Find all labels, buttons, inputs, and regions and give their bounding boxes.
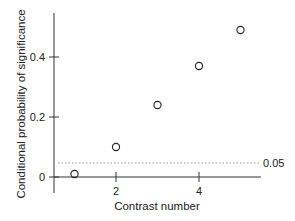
threshold-label: 0.05 bbox=[263, 157, 284, 169]
data-point bbox=[237, 26, 244, 33]
data-point bbox=[112, 143, 119, 150]
y-axis-label: Conditional probability of significance bbox=[15, 9, 27, 198]
x-ticks: 24 bbox=[113, 172, 202, 197]
y-ticks: 00.20.4 bbox=[30, 51, 59, 183]
axes bbox=[54, 13, 261, 193]
y-tick-label: 0 bbox=[39, 171, 45, 183]
data-points bbox=[71, 26, 244, 177]
data-point bbox=[154, 101, 161, 108]
data-point bbox=[195, 62, 202, 69]
reference-line: 0.05 bbox=[58, 157, 284, 169]
y-tick-label: 0.2 bbox=[30, 111, 45, 123]
scatter-chart: 00.20.4 24 0.05 Contrast number Conditio… bbox=[0, 0, 295, 221]
y-tick-label: 0.4 bbox=[30, 51, 45, 63]
x-tick-label: 2 bbox=[113, 185, 119, 197]
x-axis-label: Contrast number bbox=[114, 200, 200, 212]
x-tick-label: 4 bbox=[196, 185, 202, 197]
